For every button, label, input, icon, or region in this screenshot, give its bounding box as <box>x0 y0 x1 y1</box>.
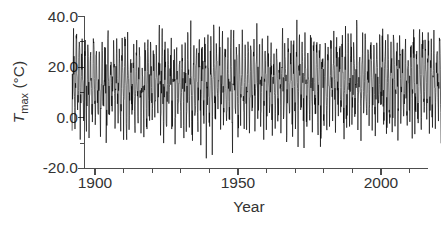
y-axis-title: Tmax (°C) <box>10 61 30 123</box>
svg-text:Tmax (°C): Tmax (°C) <box>10 61 30 123</box>
temperature-time-series-chart: 40.0 20.0 0.0 -20.0 1900 1950 2000 Year … <box>0 0 441 227</box>
figure-container: 40.0 20.0 0.0 -20.0 1900 1950 2000 Year … <box>0 0 441 227</box>
y-tick-label-40: 40.0 <box>48 8 79 25</box>
x-tick-label-1900: 1900 <box>78 174 113 191</box>
temperature-series-line <box>72 20 441 158</box>
x-tick-label-2000: 2000 <box>364 174 399 191</box>
y-tick-label-minus20: -20.0 <box>43 159 79 176</box>
y-axis-title-units: (°C) <box>10 61 27 89</box>
y-axis-title-subscript: max <box>18 92 30 113</box>
x-tick-label-1950: 1950 <box>221 174 256 191</box>
x-axis-title: Year <box>233 198 264 215</box>
